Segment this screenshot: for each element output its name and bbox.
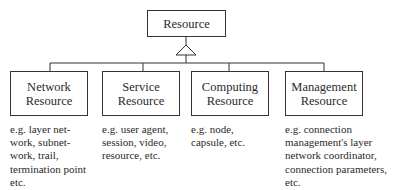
service-resource-description: e.g. user agent, session, video, resourc… xyxy=(102,123,168,163)
resource-box: Resource xyxy=(147,10,226,37)
service-resource-box: Service Resource xyxy=(102,71,180,116)
service-resource-label: Service Resource xyxy=(118,80,165,108)
inheritance-triangle-icon xyxy=(176,45,196,55)
management-resource-label: Management Resource xyxy=(291,80,356,108)
computing-resource-label: Computing Resource xyxy=(202,80,258,108)
computing-resource-box: Computing Resource xyxy=(191,71,269,116)
network-resource-description: e.g. layer net- work, subnet- work, trai… xyxy=(10,123,86,189)
computing-resource-description: e.g. node, capsule, etc. xyxy=(191,123,245,149)
resource-label: Resource xyxy=(163,17,210,31)
network-resource-label: Network Resource xyxy=(26,80,73,108)
management-resource-box: Management Resource xyxy=(285,71,363,116)
network-resource-box: Network Resource xyxy=(10,71,88,116)
management-resource-description: e.g. connection management's layer netwo… xyxy=(285,123,387,189)
